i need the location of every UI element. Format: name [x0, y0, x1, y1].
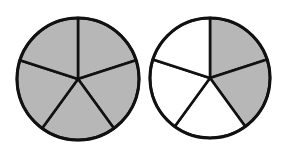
- fraction-circle-2: [150, 18, 270, 138]
- fraction-circle-1: [17, 18, 139, 140]
- fraction-circles-svg: [0, 0, 285, 152]
- fraction-diagram: Fraction circles: [0, 0, 285, 152]
